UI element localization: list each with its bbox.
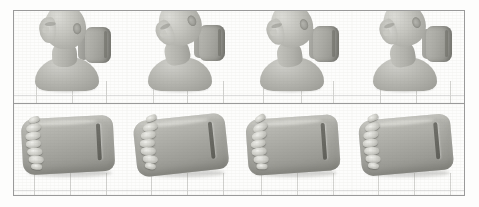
vertebra <box>28 148 43 156</box>
restraint-groove <box>208 122 216 159</box>
vertebra <box>254 155 269 163</box>
panel-spine-frame-4 <box>352 104 465 195</box>
head-restraint-mesh <box>21 115 116 176</box>
head-and-torso-row <box>14 11 464 104</box>
panel-head-frame-4 <box>352 11 465 103</box>
ear <box>73 23 82 35</box>
head-torso-model <box>352 11 465 103</box>
panel-spine-frame-3 <box>239 104 352 195</box>
panel-head-frame-1 <box>14 11 127 103</box>
head-torso-model <box>14 11 127 103</box>
vertebra <box>145 113 157 123</box>
cervical-spine <box>139 114 163 176</box>
panel-head-frame-3 <box>239 11 352 103</box>
head-restraint <box>313 26 339 62</box>
figure-frame <box>13 10 465 196</box>
nose <box>42 27 49 33</box>
ear <box>411 16 422 29</box>
ear <box>299 18 310 31</box>
cervical-spine <box>360 113 387 176</box>
ear <box>186 14 198 27</box>
vertebra <box>367 162 379 170</box>
head-restraint <box>85 27 111 63</box>
panel-spine-frame-2 <box>127 104 240 195</box>
vertebra <box>257 163 268 170</box>
head-restraint <box>426 26 452 62</box>
head-torso-model <box>239 11 352 103</box>
panel-spine-frame-1 <box>14 104 127 195</box>
restraint-groove <box>96 123 102 160</box>
head-restraint-mesh <box>245 114 341 176</box>
restraint-groove <box>321 123 328 160</box>
vertebra <box>31 163 43 170</box>
figure-root <box>0 0 479 207</box>
head-restraint-mesh <box>132 112 229 177</box>
restraint-groove <box>433 122 440 159</box>
head-restraint-and-cervical-spine-row <box>14 104 464 195</box>
head-restraint <box>199 25 225 61</box>
head-restraint-mesh <box>357 113 454 177</box>
panel-head-frame-2 <box>127 11 240 103</box>
head-torso-model <box>127 11 240 103</box>
cervical-spine <box>23 114 50 177</box>
